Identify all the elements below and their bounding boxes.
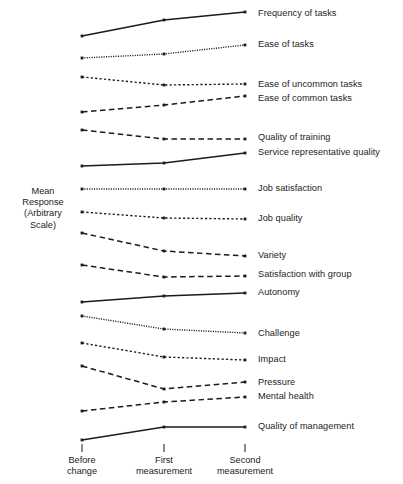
series-data-point (163, 188, 166, 191)
series-label: Ease of tasks (258, 39, 314, 49)
series-label: Job satisfaction (258, 183, 322, 193)
line-chart-figure: Mean Response (Arbitrary Scale) Frequenc… (0, 0, 403, 484)
series-label: Service representative quality (258, 147, 380, 157)
series-data-point (81, 165, 84, 168)
series-data-point (163, 426, 166, 429)
series-data-point (244, 95, 247, 98)
series-label: Variety (258, 250, 286, 260)
series-data-point (81, 35, 84, 38)
series-data-point (163, 53, 166, 56)
series-data-point (163, 250, 166, 253)
series-label: Satisfaction with group (258, 269, 352, 279)
y-axis-label-line-3: (Arbitrary (6, 208, 80, 219)
series-data-point (244, 359, 247, 362)
series-label: Impact (258, 354, 286, 364)
series-data-point (163, 217, 166, 220)
series-data-point (163, 388, 166, 391)
series-line (82, 12, 245, 36)
series-data-point (81, 211, 84, 214)
series-data-point (244, 188, 247, 191)
series-line (82, 233, 245, 256)
series-label: Pressure (258, 377, 295, 387)
series-data-point (244, 426, 247, 429)
series-data-point (163, 162, 166, 165)
series-data-point (81, 264, 84, 267)
x-axis-tick-label-line: measurement (190, 466, 300, 477)
series-line (82, 366, 245, 389)
series-data-point (81, 111, 84, 114)
series-data-point (244, 83, 247, 86)
series-data-point (81, 315, 84, 318)
series-line (82, 397, 245, 411)
series-data-point (244, 44, 247, 47)
x-axis-ticks-group (82, 444, 245, 452)
series-data-point (81, 365, 84, 368)
chart-plot-area (0, 0, 403, 484)
series-data-point (81, 232, 84, 235)
series-data-point (244, 332, 247, 335)
series-data-point (163, 401, 166, 404)
series-data-point (81, 76, 84, 79)
x-axis-tick-label-line: Second (190, 455, 300, 466)
series-data-point (81, 342, 84, 345)
series-data-point (81, 188, 84, 191)
series-label: Mental health (258, 391, 314, 401)
series-lines-group (81, 11, 247, 442)
series-data-point (244, 396, 247, 399)
series-label: Job quality (258, 213, 302, 223)
series-data-point (244, 218, 247, 221)
series-data-point (81, 439, 84, 442)
series-label: Ease of uncommon tasks (258, 79, 362, 89)
series-line (82, 265, 245, 277)
series-data-point (244, 255, 247, 258)
series-data-point (244, 152, 247, 155)
series-data-point (163, 276, 166, 279)
series-data-point (163, 356, 166, 359)
series-label: Quality of management (258, 421, 354, 431)
series-data-point (163, 295, 166, 298)
series-data-point (163, 104, 166, 107)
series-data-point (163, 138, 166, 141)
series-data-point (244, 292, 247, 295)
series-data-point (81, 410, 84, 413)
series-data-point (163, 84, 166, 87)
series-data-point (81, 301, 84, 304)
y-axis-label-line-2: Response (6, 197, 80, 208)
series-data-point (244, 275, 247, 278)
series-label: Ease of common tasks (258, 93, 352, 103)
series-data-point (244, 11, 247, 14)
series-label: Challenge (258, 328, 300, 338)
series-data-point (81, 129, 84, 132)
y-axis-label: Mean Response (Arbitrary Scale) (6, 186, 80, 231)
series-data-point (244, 381, 247, 384)
series-line (82, 316, 245, 333)
series-line (82, 45, 245, 58)
series-line (82, 427, 245, 440)
series-label: Autonomy (258, 287, 300, 297)
series-line (82, 293, 245, 302)
series-label: Frequency of tasks (258, 8, 337, 18)
x-axis-tick-label: Secondmeasurement (190, 455, 300, 477)
y-axis-label-line-1: Mean (6, 186, 80, 197)
series-data-point (163, 19, 166, 22)
series-data-point (244, 138, 247, 141)
series-label: Quality of training (258, 132, 330, 142)
series-data-point (163, 328, 166, 331)
series-data-point (81, 57, 84, 60)
y-axis-label-line-4: Scale) (6, 220, 80, 231)
